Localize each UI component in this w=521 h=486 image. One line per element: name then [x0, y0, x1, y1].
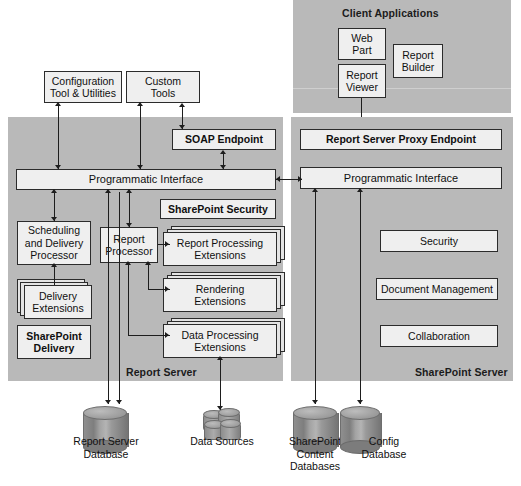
connector-config-tool-to-interface: [58, 105, 59, 169]
arrowhead-delivery-to-scheduling-up: [51, 263, 57, 267]
report-server-proxy-endpoint-box[interactable]: Report Server Proxy Endpoint: [300, 129, 502, 150]
client-applications-divider: [293, 88, 511, 89]
connector-processor-to-data-processing-vert: [128, 263, 129, 336]
arrowhead-interface-right: [298, 176, 302, 182]
connector-processor-to-data-processing-horiz: [128, 335, 170, 336]
sharepoint-service-document-management-box[interactable]: Document Management: [376, 278, 498, 300]
connector-interface-to-report-processor: [129, 192, 130, 227]
arrowhead-data-processing-right: [165, 332, 169, 338]
arrowhead-rendering-feedback-up: [145, 261, 151, 265]
cylinder-top: [83, 406, 127, 420]
connector-data-processing-to-data-sources: [220, 358, 221, 410]
scheduling-and-delivery-processor-box[interactable]: Scheduling and Delivery Processor: [17, 221, 91, 265]
rendering-extensions-box[interactable]: Rendering Extensions: [163, 278, 277, 312]
arrowhead-content-db-up: [312, 188, 318, 192]
arrowhead-data-processing-feedback-up: [125, 261, 131, 265]
connector-processor-to-rendering-vert: [148, 263, 149, 290]
arrowhead-rsdb-b-down: [116, 400, 122, 404]
cylinder-top: [340, 406, 380, 420]
sharepoint-service-security-box[interactable]: Security: [380, 230, 498, 252]
arrowhead-report-processing-right: [165, 241, 169, 247]
sharepoint-programmatic-interface-box[interactable]: Programmatic Interface: [300, 167, 502, 189]
arrowhead-interface-left: [276, 176, 280, 182]
arrowhead-rsdb-a-up: [105, 189, 111, 193]
arrowhead-rsdb-a-down: [105, 400, 111, 404]
arrowhead-custom-tools-up: [137, 102, 143, 106]
connector-sharepoint-to-content-db: [315, 191, 316, 404]
data-processing-extensions-box[interactable]: Data Processing Extensions: [163, 324, 277, 358]
client-box-report-viewer[interactable]: Report Viewer: [338, 64, 386, 98]
client-box-report-builder[interactable]: Report Builder: [393, 44, 443, 78]
arrowhead-config-tool-down: [55, 165, 61, 169]
report-processing-extensions-box[interactable]: Report Processing Extensions: [163, 232, 277, 266]
data-source-cap-back-right: [218, 408, 240, 417]
rendering-extensions-stack[interactable]: Rendering Extensions: [163, 272, 285, 312]
arrowhead-config-db-up: [357, 188, 363, 192]
client-applications-label: Client Applications: [342, 7, 439, 19]
report-processing-extensions-stack[interactable]: Report Processing Extensions: [163, 226, 285, 266]
tool-box-configuration-tool[interactable]: Configuration Tool & Utilities: [44, 71, 122, 103]
sharepoint-delivery-box[interactable]: SharePoint Delivery: [17, 325, 91, 359]
connector-custom-tools-to-interface: [140, 105, 141, 169]
arrowhead-scheduling-up: [51, 189, 57, 193]
soap-endpoint-box[interactable]: SOAP Endpoint: [172, 129, 276, 150]
arrowhead-custom-tools-interface-down: [137, 165, 143, 169]
arrowhead-report-processor-up: [126, 189, 132, 193]
connector-interface-to-rsdb-a: [108, 192, 109, 404]
arrowhead-custom-tools-soap-up: [179, 103, 185, 107]
connector-interface-to-rsdb-b: [119, 192, 120, 404]
arrowhead-config-db-down: [357, 400, 363, 404]
sharepoint-security-box[interactable]: SharePoint Security: [160, 199, 276, 219]
arrowhead-config-tool-up: [55, 102, 61, 106]
delivery-extensions-stack[interactable]: Delivery Extensions: [17, 279, 93, 319]
data-source-cap-front-right: [220, 419, 241, 428]
report-server-label: Report Server: [126, 366, 197, 378]
data-sources-label: Data Sources: [176, 435, 268, 448]
data-processing-extensions-stack[interactable]: Data Processing Extensions: [163, 318, 285, 358]
architecture-diagram: Client Applications Web Part Report Buil…: [0, 0, 521, 486]
config-database-label: Config Database: [349, 435, 419, 460]
arrowhead-soap-interface-up: [220, 150, 226, 154]
arrowhead-rendering-right: [165, 286, 169, 292]
arrowhead-soap-interface-down: [220, 165, 226, 169]
tool-box-custom-tools[interactable]: Custom Tools: [126, 71, 200, 103]
arrowhead-custom-tools-soap-down: [179, 125, 185, 129]
cylinder-top: [293, 406, 337, 420]
delivery-extensions-box[interactable]: Delivery Extensions: [24, 285, 92, 319]
connector-sharepoint-to-config-db: [360, 191, 361, 404]
client-box-web-part[interactable]: Web Part: [338, 28, 386, 60]
arrowhead-scheduling-down: [51, 217, 57, 221]
arrowhead-data-sources-up: [217, 356, 223, 360]
arrowhead-report-processor-down: [126, 223, 132, 227]
report-server-database-label: Report Server Database: [56, 435, 156, 460]
connector-scheduling-to-delivery: [54, 265, 55, 285]
sharepoint-content-databases-label: SharePoint Content Databases: [283, 435, 347, 473]
sharepoint-service-collaboration-box[interactable]: Collaboration: [380, 325, 498, 347]
sharepoint-server-label: SharePoint Server: [415, 366, 508, 378]
arrowhead-content-db-down: [312, 400, 318, 404]
report-server-programmatic-interface-box[interactable]: Programmatic Interface: [16, 169, 276, 190]
